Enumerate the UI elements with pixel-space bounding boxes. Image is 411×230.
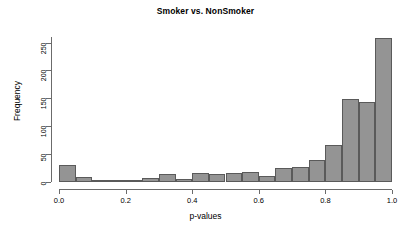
plot-area — [59, 37, 392, 182]
x-axis-title: p-values — [0, 211, 411, 221]
y-axis-tick-label: 100 — [41, 126, 48, 138]
histogram-bar — [59, 165, 76, 182]
histogram-bar — [142, 178, 159, 182]
x-axis-tick-label: 0.6 — [244, 196, 274, 205]
y-axis-tick-label: 250 — [41, 42, 48, 54]
histogram-bar — [325, 145, 342, 182]
histogram-bar — [292, 167, 309, 182]
histogram-bar — [275, 168, 292, 182]
histogram-bar — [159, 174, 176, 182]
histogram-bar — [209, 174, 226, 182]
histogram-bar — [359, 102, 376, 182]
y-axis-tick-label: 150 — [41, 98, 48, 110]
x-axis-tick — [59, 190, 60, 194]
histogram-bar — [192, 173, 209, 182]
y-axis-tick-label: 50 — [41, 154, 48, 162]
x-axis-tick-label: 0.4 — [177, 196, 207, 205]
y-axis-line — [51, 37, 52, 182]
histogram-bar — [375, 38, 392, 182]
x-axis-tick-label: 0.0 — [44, 196, 74, 205]
x-axis-tick — [392, 190, 393, 194]
histogram-bar — [242, 172, 259, 182]
histogram-bar — [76, 177, 93, 182]
x-axis-tick-label: 1.0 — [377, 196, 407, 205]
histogram-bar — [259, 176, 276, 182]
x-axis-tick — [259, 190, 260, 194]
histogram-bar — [126, 180, 143, 182]
x-axis-tick — [192, 190, 193, 194]
chart-title: Smoker vs. NonSmoker — [0, 6, 411, 16]
y-axis-tick-label: 200 — [41, 70, 48, 82]
y-axis-tick-label: 0 — [41, 182, 48, 186]
histogram-bar — [309, 160, 326, 182]
x-axis-tick-label: 0.8 — [310, 196, 340, 205]
x-axis-line — [59, 189, 392, 190]
histogram-bar — [226, 173, 243, 182]
histogram-figure: Smoker vs. NonSmoker Frequency 050100150… — [0, 0, 411, 230]
x-axis-tick — [325, 190, 326, 194]
histogram-bar — [342, 99, 359, 182]
x-axis-tick-label: 0.2 — [111, 196, 141, 205]
x-axis-tick — [126, 190, 127, 194]
histogram-bar — [109, 180, 126, 182]
histogram-bars — [59, 37, 392, 182]
histogram-bar — [176, 179, 193, 182]
y-axis-title: Frequency — [12, 51, 22, 151]
histogram-bar — [92, 180, 109, 182]
